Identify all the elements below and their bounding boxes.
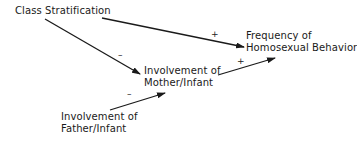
edge-sign-class-freq: + <box>211 30 219 39</box>
node-label-line1: Involvement of <box>61 111 138 123</box>
edge-father-to-mother <box>110 93 165 110</box>
node-frequency-homosexual-behavior: Frequency of Homosexual Behavior <box>246 30 357 54</box>
edge-mother-to-freq <box>218 58 275 75</box>
edge-class-to-freq <box>102 18 244 47</box>
node-class-stratification: Class Stratification <box>15 5 111 17</box>
node-label-line1: Frequency of <box>246 30 357 42</box>
node-label-line2: Father/Infant <box>61 123 138 135</box>
node-involvement-mother-infant: Involvement of Mother/Infant <box>144 65 221 89</box>
node-label: Class Stratification <box>15 5 111 17</box>
node-label-line2: Mother/Infant <box>144 77 221 89</box>
edge-sign-mother-freq: + <box>237 57 245 66</box>
edge-class-to-mother <box>45 19 140 74</box>
node-label-line1: Involvement of <box>144 65 221 77</box>
node-involvement-father-infant: Involvement of Father/Infant <box>61 111 138 135</box>
node-label-line2: Homosexual Behavior <box>246 42 357 54</box>
edge-sign-father-mother: – <box>127 90 132 99</box>
edge-sign-class-mother: – <box>118 51 123 60</box>
